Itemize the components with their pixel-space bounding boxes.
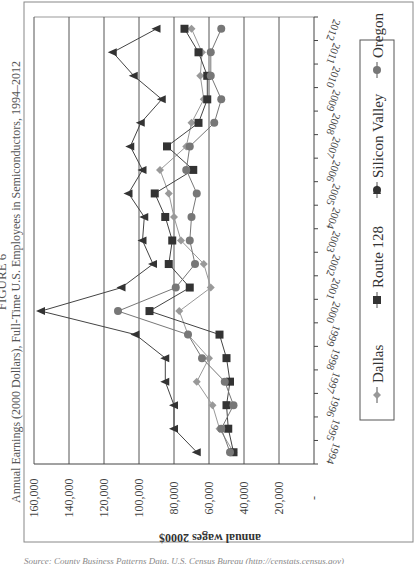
axes: 1994199519961997199819992000200120022003… — [27, 17, 343, 518]
x-tick-label: 2002 — [324, 253, 343, 278]
y-axis-label: annual wages 2000$ — [159, 531, 261, 545]
x-tick-label: 1999 — [324, 324, 343, 349]
legend-item: Dallas — [370, 345, 386, 383]
legend: DallasRoute 128Silicon ValleyOregon — [360, 13, 394, 420]
x-tick-label: 2000 — [324, 300, 343, 325]
y-tick-label: 140,000 — [62, 479, 76, 518]
x-tick-label: 2007 — [324, 135, 343, 160]
x-tick-label: 2006 — [324, 159, 343, 184]
y-tick-label: 60,000 — [202, 482, 216, 515]
figure-title: Annual Earnings (2000 Dollars), Full-Tim… — [9, 61, 23, 503]
legend-item: Route 128 — [370, 226, 386, 288]
figure-label: FIGURE 6 — [0, 253, 9, 310]
data-series — [36, 25, 238, 456]
y-tick-label: 120,000 — [97, 479, 111, 518]
y-tick-label: - — [307, 496, 321, 500]
series-dallas — [156, 25, 238, 456]
x-tick-label: 2012 — [324, 18, 343, 43]
x-tick-label: 1994 — [324, 441, 343, 466]
legend-item: Oregon — [370, 13, 386, 58]
chart-frame — [24, 2, 413, 542]
y-tick-label: 100,000 — [132, 479, 146, 518]
x-tick-label: 2009 — [324, 88, 343, 113]
y-tick-label: 80,000 — [167, 482, 181, 515]
x-tick-label: 2005 — [324, 182, 343, 207]
chart: FIGURE 6 Annual Earnings (2000 Dollars),… — [0, 0, 419, 564]
x-tick-label: 1995 — [324, 418, 343, 443]
x-tick-label: 1996 — [324, 394, 343, 419]
y-tick-label: 40,000 — [237, 482, 251, 515]
x-tick-label: 2004 — [324, 206, 343, 231]
x-tick-label: 2010 — [324, 65, 343, 90]
figure: FIGURE 6 Annual Earnings (2000 Dollars),… — [0, 0, 419, 564]
x-tick-label: 1997 — [324, 371, 343, 396]
source-note: Source: County Business Patterns Data, U… — [24, 556, 344, 564]
x-tick-label: 2003 — [324, 229, 343, 254]
y-tick-label: 160,000 — [27, 479, 41, 518]
x-tick-label: 1998 — [324, 347, 343, 372]
x-tick-label: 2008 — [324, 112, 343, 137]
x-tick-label: 2011 — [324, 41, 343, 65]
y-tick-label: 20,000 — [272, 482, 286, 515]
x-tick-label: 2001 — [324, 277, 343, 302]
legend-item: Silicon Valley — [370, 93, 386, 178]
